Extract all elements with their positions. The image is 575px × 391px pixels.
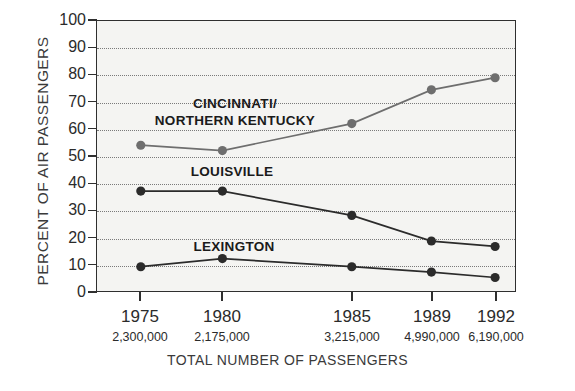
- series-label-lexington: LEXINGTON: [149, 239, 319, 256]
- line-series-2: [141, 259, 495, 278]
- x-axis-passengers-1975: 2,300,000: [95, 330, 185, 344]
- plot-area: CINCINNATI/NORTHERN KENTUCKY LOUISVILLE …: [96, 20, 516, 292]
- data-point: [136, 141, 145, 150]
- data-point: [136, 187, 145, 196]
- x-axis-year-1975: 1975: [95, 307, 185, 327]
- data-point: [427, 236, 436, 245]
- data-point: [427, 85, 436, 94]
- x-tick-1985: [351, 292, 352, 301]
- x-axis-passengers-1985: 3,215,000: [307, 330, 397, 344]
- data-point: [347, 262, 356, 271]
- data-point: [491, 273, 500, 282]
- y-axis-label-50: 50: [46, 148, 86, 164]
- data-point: [218, 146, 227, 155]
- y-axis-label-10: 10: [46, 257, 86, 273]
- x-axis-passengers-1980: 2,175,000: [177, 330, 267, 344]
- x-tick-1975: [139, 292, 140, 301]
- y-axis-label-90: 90: [46, 39, 86, 55]
- x-axis-year-1985: 1985: [307, 307, 397, 327]
- y-axis-label-70: 70: [46, 94, 86, 110]
- series-label-louisville: LOUISVILLE: [147, 164, 317, 181]
- x-tick-1980: [221, 292, 222, 301]
- x-axis-title: TOTAL NUMBER OF PASSENGERS: [0, 352, 575, 368]
- data-point: [347, 119, 356, 128]
- series-label-cincinnati-line2: NORTHERN KENTUCKY: [125, 113, 345, 130]
- x-tick-1992: [495, 292, 496, 301]
- y-axis-label-100: 100: [46, 12, 86, 28]
- y-axis-label-0: 0: [46, 284, 86, 300]
- y-axis-label-60: 60: [46, 121, 86, 137]
- y-axis-label-30: 30: [46, 202, 86, 218]
- data-point: [427, 268, 436, 277]
- data-point: [491, 242, 500, 251]
- x-tick-1989: [431, 292, 432, 301]
- data-point: [136, 262, 145, 271]
- series-label-cincinnati-line1: CINCINNATI/: [125, 96, 345, 113]
- y-axis-label-40: 40: [46, 175, 86, 191]
- x-axis-year-1980: 1980: [177, 307, 267, 327]
- x-axis-passengers-1992: 6,190,000: [451, 330, 541, 344]
- data-point: [347, 211, 356, 220]
- data-point: [218, 187, 227, 196]
- chart-figure: PERCENT OF AIR PASSENGERS 01020304050607…: [0, 0, 575, 391]
- data-point: [491, 73, 500, 82]
- x-axis-year-1992: 1992: [451, 307, 541, 327]
- y-axis-label-80: 80: [46, 66, 86, 82]
- series-label-cincinnati: CINCINNATI/NORTHERN KENTUCKY: [125, 96, 345, 130]
- y-axis-label-20: 20: [46, 230, 86, 246]
